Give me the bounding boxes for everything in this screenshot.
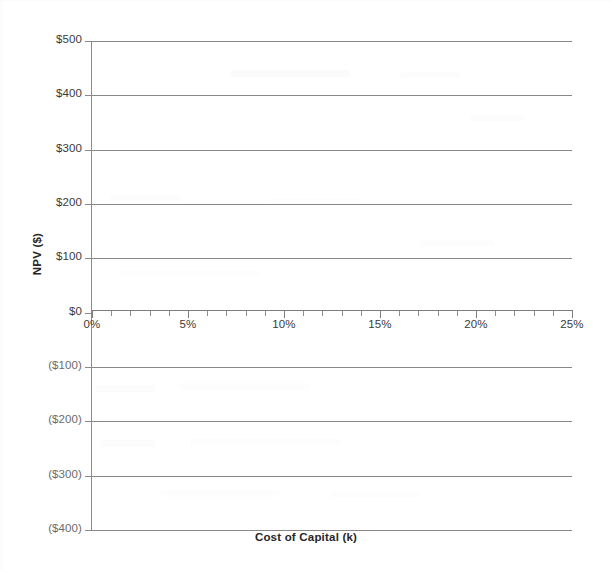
y-axis-tick-label: $0	[22, 305, 82, 317]
x-axis-tick-minor	[322, 311, 323, 316]
gridline	[92, 258, 572, 259]
y-axis-tick-label: $500	[22, 33, 82, 45]
y-axis-tick-label: $400	[22, 87, 82, 99]
x-axis-tick-minor	[514, 311, 515, 316]
x-axis-tick-minor	[150, 311, 151, 316]
x-axis-tick-minor	[361, 311, 362, 316]
x-axis-tick-minor	[534, 311, 535, 316]
y-axis-tick	[85, 258, 92, 259]
gridline	[92, 150, 572, 151]
x-axis-tick-major	[380, 311, 381, 318]
gridline	[92, 367, 572, 368]
y-axis-tick	[85, 313, 92, 314]
plot-area	[92, 41, 572, 530]
x-axis-tick-minor	[495, 311, 496, 316]
x-axis-tick-minor	[342, 311, 343, 316]
gridline	[92, 204, 572, 205]
x-axis-tick-major	[188, 311, 189, 318]
y-axis-tick	[85, 367, 92, 368]
gridline	[92, 476, 572, 477]
x-axis-tick-label: 0%	[62, 318, 122, 330]
y-axis-tick	[85, 95, 92, 96]
y-axis-title: NPV ($)	[31, 209, 43, 299]
x-axis-tick-minor	[418, 311, 419, 316]
x-axis-tick-minor	[169, 311, 170, 316]
x-axis-tick-label: 20%	[446, 318, 506, 330]
x-axis-tick-minor	[553, 311, 554, 316]
x-axis-tick-major	[476, 311, 477, 318]
x-axis-title: Cost of Capital (k)	[0, 531, 612, 543]
x-axis-tick-label: 10%	[254, 318, 314, 330]
y-axis-tick	[85, 150, 92, 151]
npv-profile-chart: $500$400$300$200$100$0($100)($200)($300)…	[0, 0, 612, 571]
y-axis-tick	[85, 41, 92, 42]
x-axis-tick-major	[572, 311, 573, 318]
gridline	[92, 95, 572, 96]
x-axis-tick-minor	[130, 311, 131, 316]
x-axis-tick-major	[92, 311, 93, 318]
y-axis-tick-label: ($200)	[22, 413, 82, 425]
x-axis-tick-minor	[265, 311, 266, 316]
x-axis-tick-minor	[399, 311, 400, 316]
y-axis-tick	[85, 204, 92, 205]
x-axis-tick-minor	[303, 311, 304, 316]
x-axis-line	[92, 310, 573, 311]
x-axis-tick-minor	[226, 311, 227, 316]
y-axis-tick	[85, 421, 92, 422]
y-axis-tick-label: ($300)	[22, 468, 82, 480]
y-axis-tick-label: ($100)	[22, 359, 82, 371]
x-axis-tick-label: 5%	[158, 318, 218, 330]
gridline	[92, 41, 572, 42]
x-axis-tick-minor	[438, 311, 439, 316]
x-axis-tick-label: 25%	[542, 318, 602, 330]
y-axis-line	[91, 41, 92, 530]
y-axis-tick-label: $300	[22, 142, 82, 154]
y-axis-tick-label: $200	[22, 196, 82, 208]
x-axis-tick-minor	[457, 311, 458, 316]
gridline	[92, 421, 572, 422]
x-axis-tick-minor	[246, 311, 247, 316]
x-axis-tick-label: 15%	[350, 318, 410, 330]
y-axis-tick	[85, 476, 92, 477]
x-axis-tick-minor	[111, 311, 112, 316]
x-axis-tick-minor	[207, 311, 208, 316]
x-axis-tick-major	[284, 311, 285, 318]
